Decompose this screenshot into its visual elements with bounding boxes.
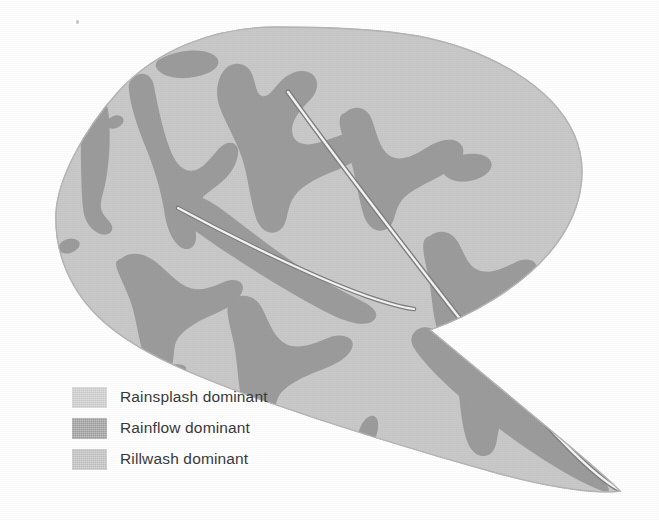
erosion-zones-figure: Rainsplash dominant Rainflow dominant Ri… bbox=[0, 0, 659, 520]
erosion-process-legend: Rainsplash dominant Rainflow dominant Ri… bbox=[72, 386, 268, 470]
legend-label-rainsplash: Rainsplash dominant bbox=[120, 389, 268, 405]
legend-item-rainflow: Rainflow dominant bbox=[72, 417, 268, 439]
legend-label-rillwash: Rillwash dominant bbox=[120, 451, 248, 467]
legend-label-rainflow: Rainflow dominant bbox=[120, 420, 250, 436]
scan-speck bbox=[76, 20, 79, 24]
legend-swatch-rainsplash bbox=[72, 387, 107, 408]
legend-item-rillwash: Rillwash dominant bbox=[72, 448, 268, 470]
legend-item-rainsplash: Rainsplash dominant bbox=[72, 386, 268, 408]
legend-swatch-rillwash bbox=[72, 449, 107, 470]
legend-swatch-rainflow bbox=[72, 418, 107, 439]
